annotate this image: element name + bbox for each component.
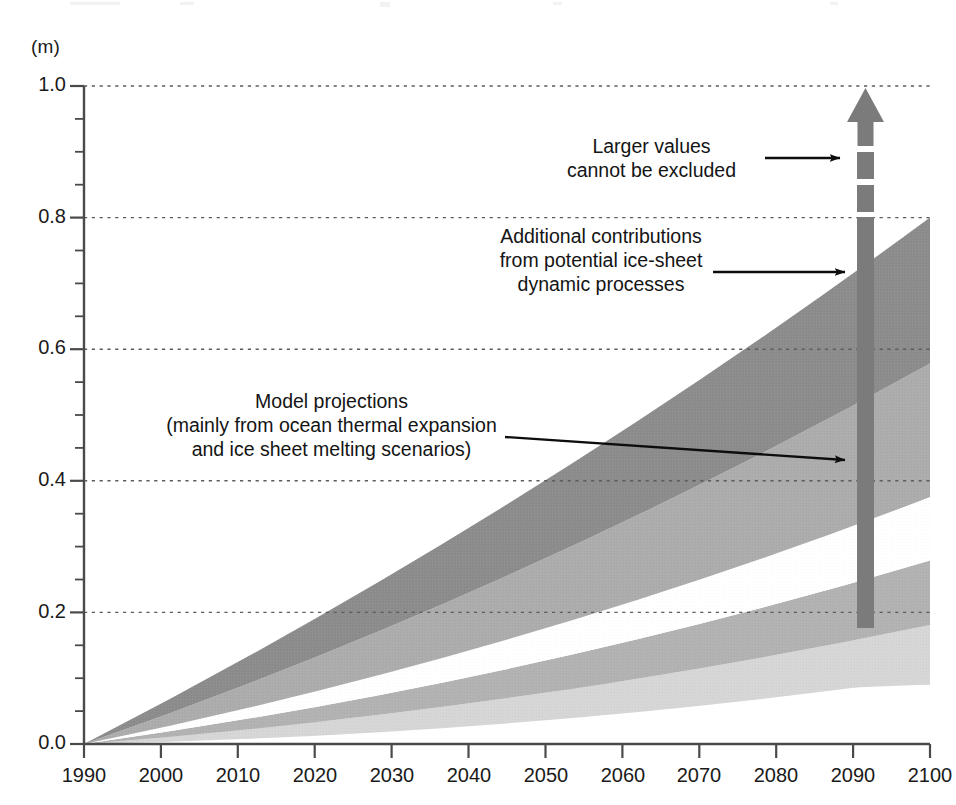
y-tick-label-2: 0.8 (6, 205, 66, 228)
annotation-model-projections-line3: and ice sheet melting scenarios) (159, 437, 504, 461)
y-tick-label-1: 1.0 (6, 73, 66, 96)
y-tick-label-5: 0.2 (6, 600, 66, 623)
annotation-model-projections-line1: Model projections (159, 389, 504, 413)
annotation-ice-sheet-line1: Additional contributions (487, 224, 715, 248)
y-tick-label-6: 0.0 (6, 731, 66, 754)
y-axis-minor-ticks (75, 119, 84, 711)
annotation-larger-values-line2: cannot be excluded (539, 158, 764, 182)
y-tick-label-4: 0.4 (6, 468, 66, 491)
annotation-larger-values: Larger values cannot be excluded (539, 134, 764, 182)
y-tick-label-3: 0.6 (6, 336, 66, 359)
x-tick-label-12: 2100 (880, 764, 956, 787)
annotation-model-projections: Model projections (mainly from ocean the… (159, 389, 504, 461)
y-axis-unit-label: (m) (31, 36, 60, 58)
annotation-larger-values-line1: Larger values (539, 134, 764, 158)
annotation-ice-sheet-line2: from potential ice-sheet (487, 248, 715, 272)
x-axis-ticks (84, 744, 930, 758)
annotation-ice-sheet: Additional contributions from potential … (487, 224, 715, 296)
annotation-model-projections-line2: (mainly from ocean thermal expansion (159, 413, 504, 437)
annotation-ice-sheet-line3: dynamic processes (487, 272, 715, 296)
